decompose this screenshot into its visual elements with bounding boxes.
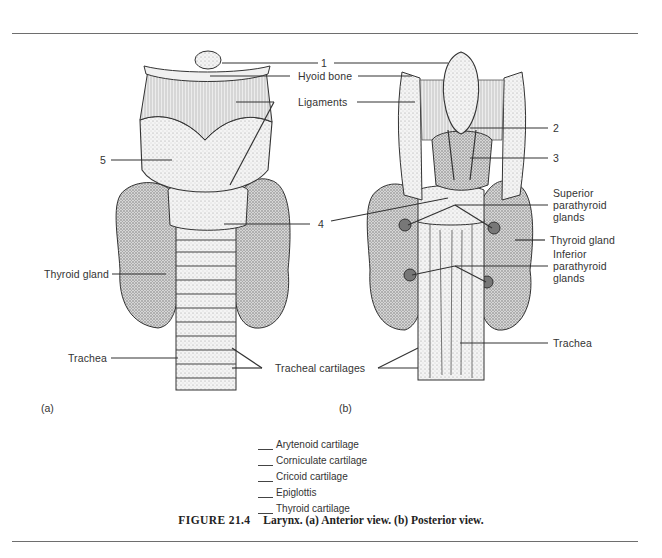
- label-superior-parathyroid-glands: Superior parathyroid glands: [553, 187, 633, 223]
- label-trachea-posterior: Trachea: [553, 337, 592, 349]
- key-item-epiglottis: Epiglottis: [258, 485, 367, 501]
- key-item-cricoid: Cricoid cartilage: [258, 469, 367, 485]
- label-tracheal-cartilages: Tracheal cartilages: [275, 362, 365, 374]
- label-thyroid-gland-anterior: Thyroid gland: [44, 268, 109, 280]
- label-number-4: 4: [318, 218, 324, 230]
- answer-blank[interactable]: [258, 488, 273, 498]
- label-hyoid-bone: Hyoid bone: [298, 70, 352, 82]
- panel-tag-b: (b): [339, 402, 352, 414]
- key-item-label: Arytenoid cartilage: [276, 437, 359, 453]
- label-trachea-anterior: Trachea: [68, 352, 107, 364]
- label-number-2: 2: [553, 122, 559, 134]
- key-item-corniculate: Corniculate cartilage: [258, 453, 367, 469]
- key-item-label: Cricoid cartilage: [276, 469, 348, 485]
- figure-number: FIGURE 21.4: [178, 514, 250, 526]
- answer-blank[interactable]: [258, 472, 273, 482]
- answer-blank[interactable]: [258, 504, 273, 514]
- label-ligaments: Ligaments: [298, 96, 347, 108]
- answer-blank[interactable]: [258, 456, 273, 466]
- key-item-label: Epiglottis: [276, 485, 317, 501]
- answer-key-list: Arytenoid cartilage Corniculate cartilag…: [258, 437, 367, 517]
- key-item-label: Corniculate cartilage: [276, 453, 367, 469]
- label-thyroid-gland-posterior: Thyroid gland: [550, 234, 615, 246]
- figure-caption: FIGURE 21.4 Larynx. (a) Anterior view. (…: [0, 514, 662, 526]
- bottom-rule: [12, 541, 638, 542]
- key-item-arytenoid: Arytenoid cartilage: [258, 437, 367, 453]
- answer-blank[interactable]: [258, 440, 273, 450]
- label-number-5: 5: [100, 154, 106, 166]
- panel-tag-a: (a): [41, 402, 54, 414]
- label-number-1: 1: [321, 57, 327, 69]
- label-inferior-parathyroid-glands: Inferior parathyroid glands: [553, 248, 633, 284]
- figure-title: Larynx. (a) Anterior view. (b) Posterior…: [263, 514, 483, 526]
- posterior-view-drawing: [367, 52, 532, 380]
- label-number-3: 3: [553, 152, 559, 164]
